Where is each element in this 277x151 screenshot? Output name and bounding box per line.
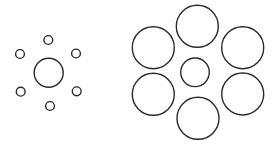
ebbinghaus-diagram [0,0,277,151]
background [0,0,277,151]
